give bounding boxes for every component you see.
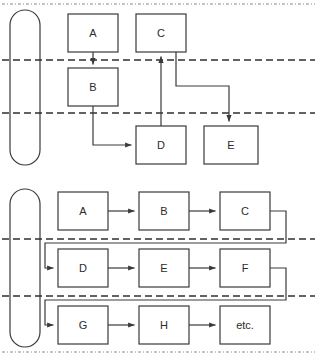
node-label: E xyxy=(160,262,167,274)
node-label: B xyxy=(160,205,167,217)
node-box-c-lower[interactable]: C xyxy=(220,192,270,230)
node-box-g-lower[interactable]: G xyxy=(58,306,108,344)
node-label: A xyxy=(89,27,97,39)
node-box-a-lower[interactable]: A xyxy=(58,192,108,230)
node-box-etc-lower[interactable]: etc. xyxy=(220,306,270,344)
node-label: C xyxy=(241,205,249,217)
node-label: D xyxy=(157,139,165,151)
connector-b-to-d xyxy=(93,106,132,145)
node-box-d-lower[interactable]: D xyxy=(58,249,108,287)
node-label: F xyxy=(242,262,249,274)
node-label: C xyxy=(157,27,165,39)
diagram-canvas: A C B D E xyxy=(0,0,317,357)
node-box-a-upper[interactable]: A xyxy=(68,14,118,52)
node-box-h-lower[interactable]: H xyxy=(139,306,189,344)
node-label: A xyxy=(79,205,87,217)
node-box-d-upper[interactable]: D xyxy=(136,126,186,164)
lane-bracket-lower xyxy=(10,189,40,347)
node-box-f-lower[interactable]: F xyxy=(220,249,270,287)
node-label: E xyxy=(227,139,234,151)
node-label: H xyxy=(160,319,168,331)
lane-bracket-upper xyxy=(10,10,40,165)
node-box-b-upper[interactable]: B xyxy=(68,68,118,106)
node-box-e-lower[interactable]: E xyxy=(139,249,189,287)
upper-panel: A C B D E xyxy=(2,4,315,165)
node-box-b-lower[interactable]: B xyxy=(139,192,189,230)
node-label: G xyxy=(79,319,88,331)
node-box-e-upper[interactable]: E xyxy=(204,126,258,164)
node-label: D xyxy=(79,262,87,274)
connector-c-to-e xyxy=(176,52,229,122)
flowchart-svg: A C B D E xyxy=(0,0,317,357)
lower-panel: A B C D E F xyxy=(2,189,315,352)
node-label: etc. xyxy=(236,319,254,331)
node-box-c-upper[interactable]: C xyxy=(136,14,186,52)
node-label: B xyxy=(89,81,96,93)
